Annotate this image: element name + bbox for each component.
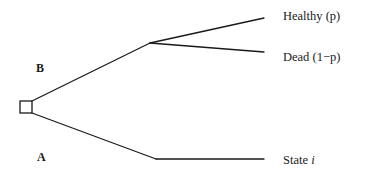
branch-label-a: A xyxy=(37,151,46,163)
state-prefix: State xyxy=(283,153,311,167)
outcome-label-state-i: State i xyxy=(283,154,315,167)
outcome-label-dead: Dead (1−p) xyxy=(283,51,340,64)
decision-node-square xyxy=(20,101,32,113)
outcome-label-healthy: Healthy (p) xyxy=(283,10,340,23)
branch-b-line xyxy=(32,43,150,101)
state-variable: i xyxy=(311,153,314,167)
branch-label-b: B xyxy=(36,62,44,74)
outcome-healthy-line xyxy=(150,18,264,43)
branch-a-line xyxy=(32,113,156,159)
decision-tree xyxy=(0,0,367,176)
outcome-dead-line xyxy=(150,43,264,52)
